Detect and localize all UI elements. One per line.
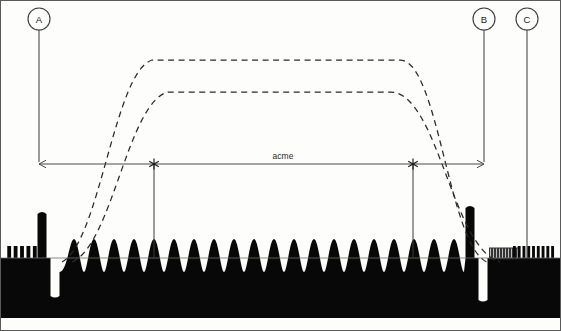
callout-b-label: B (481, 14, 487, 25)
left-pulse-train (6, 246, 38, 259)
acme-diagram-figure: acme ABC (0, 0, 561, 331)
left-pulse-train-shape (6, 246, 38, 259)
right-pulse-train-filled (512, 246, 555, 259)
right-pulse-train-filled-shape (512, 246, 555, 259)
callout-c-label: C (524, 14, 531, 25)
callout-a-label: A (36, 14, 43, 25)
dimension-label: acme (273, 151, 294, 161)
diagram-canvas: acme ABC (0, 0, 561, 331)
